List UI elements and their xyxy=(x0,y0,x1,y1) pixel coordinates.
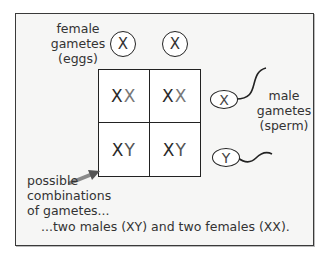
sperm-chromosome-label: Y xyxy=(222,150,231,166)
combinations-line-1: possible xyxy=(27,173,137,188)
male-label-line-1: male xyxy=(256,88,312,103)
combinations-label: possible combinations of gametes... xyxy=(27,173,137,218)
sperm-y: Y xyxy=(212,148,240,167)
sperm-chromosome-label: X xyxy=(219,92,229,108)
male-gametes-label: male gametes (sperm) xyxy=(256,88,312,133)
combinations-line-3: of gametes... xyxy=(27,203,137,218)
combinations-line-2: combinations xyxy=(27,188,137,203)
conclusion-text: ...two males (XY) and two females (XX). xyxy=(41,219,311,234)
male-label-line-2: gametes xyxy=(256,103,312,118)
sperm-x: X xyxy=(210,90,238,109)
sperm-y-tail xyxy=(238,153,272,162)
male-label-line-3: (sperm) xyxy=(256,118,312,133)
